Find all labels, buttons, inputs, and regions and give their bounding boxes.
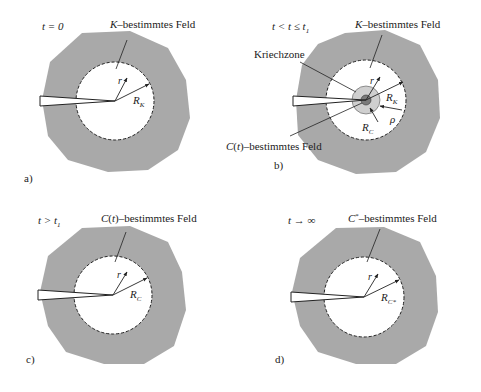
- time-condition: t → ∞: [288, 214, 316, 226]
- r-label: r: [118, 75, 122, 86]
- r-label: r: [370, 75, 374, 86]
- panel-label: d): [275, 353, 285, 366]
- r-label: r: [117, 269, 121, 280]
- field-label: K–bestimmtes Feld: [109, 18, 196, 30]
- panel-label: c): [26, 353, 35, 366]
- creep-zone-label: Kriechzone: [254, 48, 305, 60]
- panel-b: t < t ≤ t1 K–bestimmtes Feld Kriechzone …: [226, 18, 441, 174]
- panel-label: a): [24, 172, 33, 185]
- panel-c: t > t1 C(t)–bestimmtes Feld r RC c): [26, 212, 197, 366]
- field-label: K–bestimmtes Feld: [354, 18, 441, 30]
- field-label: C(t)–bestimmtes Feld: [101, 212, 197, 225]
- panel-label: b): [274, 159, 284, 172]
- panel-a: t = 0 K–bestimmtes Feld r RK a): [24, 18, 196, 185]
- time-condition: t < t ≤ t1: [272, 20, 309, 35]
- time-condition: t = 0: [42, 20, 64, 32]
- crack-field-diagram: t = 0 K–bestimmtes Feld r RK a) t < t ≤ …: [0, 0, 481, 392]
- panel-d: t → ∞ C*–bestimmtes Feld r RC* d): [275, 212, 438, 366]
- field-label: C*–bestimmtes Feld: [348, 212, 437, 224]
- r-label: r: [368, 271, 372, 282]
- rho-label: ρ: [389, 113, 395, 125]
- inner-field-label: C(t)–bestimmtes Feld: [226, 140, 322, 153]
- time-condition: t > t1: [38, 214, 61, 229]
